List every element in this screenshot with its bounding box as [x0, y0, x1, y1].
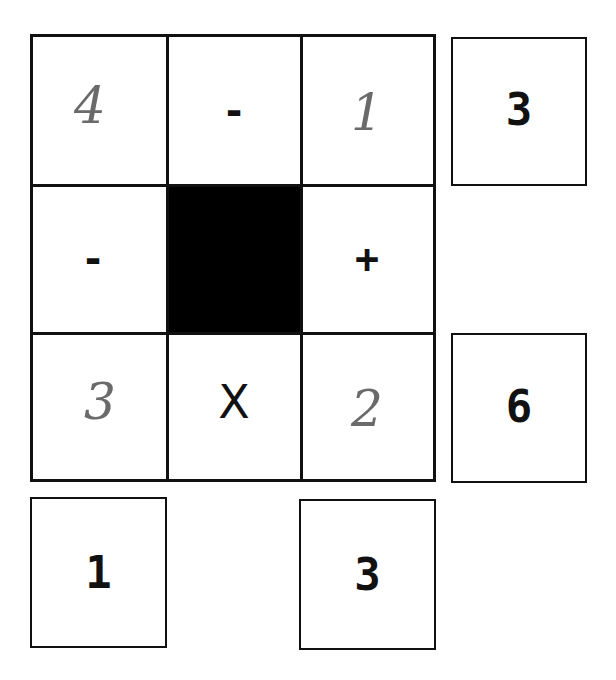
row-result-3: 6 — [451, 333, 587, 483]
grid-divider — [33, 184, 433, 187]
grid-cell-r1c3[interactable]: 1 — [301, 37, 433, 185]
column-result-value: 1 — [85, 547, 112, 598]
row-result-value: 3 — [506, 84, 533, 135]
grid-cell-r3c3[interactable]: 2 — [301, 333, 433, 479]
grid-cell-r1c2: - — [167, 37, 301, 185]
row-result-1: 3 — [451, 37, 587, 186]
puzzle-grid: 4 - 1 - + 3 X 2 — [30, 34, 436, 482]
cell-value: 1 — [351, 84, 383, 142]
grid-divider — [33, 332, 433, 335]
column-result-1: 1 — [30, 497, 167, 648]
grid-divider — [300, 37, 303, 479]
cell-value: 4 — [74, 77, 106, 135]
grid-cell-r3c2: X — [167, 333, 301, 479]
grid-cell-r3c1[interactable]: 3 — [33, 333, 167, 479]
column-result-3: 3 — [299, 499, 436, 650]
column-result-value: 3 — [354, 549, 381, 600]
grid-divider — [166, 37, 169, 479]
minus-operator: - — [222, 88, 246, 134]
cell-value: 3 — [84, 373, 116, 431]
plus-operator: + — [355, 236, 379, 282]
minus-operator: - — [81, 236, 105, 282]
cell-value: 2 — [351, 380, 383, 438]
row-result-value: 6 — [506, 381, 533, 432]
grid-cell-r2c1: - — [33, 185, 167, 333]
grid-cell-blocked — [167, 185, 301, 333]
multiply-operator: X — [218, 375, 250, 429]
grid-cell-r2c3: + — [301, 185, 433, 333]
grid-cell-r1c1[interactable]: 4 — [33, 37, 167, 185]
